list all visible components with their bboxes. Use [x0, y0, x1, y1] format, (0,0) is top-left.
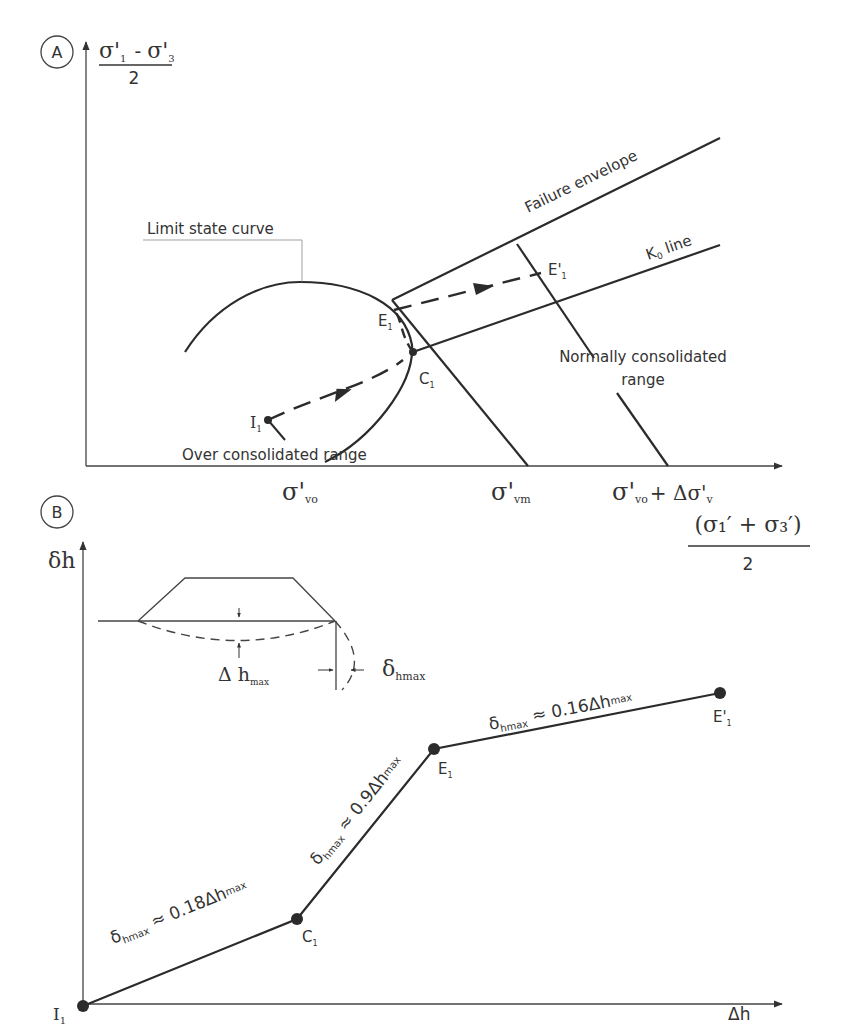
normally-consolidated-label-1: Normally consolidated [559, 348, 727, 366]
point-i1-b [77, 1000, 89, 1012]
point-e1-b [428, 743, 440, 755]
lateral-profile [335, 621, 354, 690]
stress-path-e1-e1prime [394, 273, 541, 310]
badge-b-text: B [52, 503, 63, 522]
svg-text:2: 2 [129, 68, 140, 88]
point-c1-b [291, 913, 303, 925]
limit-state-curve [185, 282, 412, 462]
label-e1prime-b: E'1 [713, 708, 732, 728]
label-e1prime-a: E'1 [548, 261, 567, 281]
stress-path-i1-c1 [268, 360, 403, 420]
x-axis-label-b: Δh [728, 1004, 750, 1024]
limit-state-label: Limit state curve [147, 220, 274, 238]
segment-label-2: δhmax ≈ 0.9Δhmax [306, 751, 408, 870]
tick-sigma-vm: σ'vm [491, 478, 531, 506]
y-axis-label-b: δh [48, 548, 75, 573]
panel-b: B δh Δh Δ hmax δhmax I1 C1 E1 E'1 [41, 496, 782, 1026]
label-i1-b: I1 [53, 1004, 66, 1026]
panel-a-badge: A [41, 36, 73, 68]
delta-h-max-label: Δ hmax [218, 663, 269, 687]
label-e1-a: E1 [378, 312, 393, 332]
segment-label-3: δhmax ≈ 0.16Δhmax [487, 686, 634, 735]
path-arrow-1 [334, 387, 353, 402]
label-i1-a: I1 [250, 413, 262, 434]
figure: A σ'1-σ'3 2 Limit state curve Failure en… [0, 0, 845, 1035]
stress-path-c1-e1 [394, 310, 413, 352]
delta-hmax-label: δhmax [382, 656, 426, 683]
point-e1prime-b [714, 687, 726, 699]
normally-consolidated-label-2: range [621, 371, 665, 389]
panel-b-badge: B [41, 496, 73, 528]
label-c1-a: C1 [419, 370, 435, 390]
unload-line-lower [617, 393, 668, 466]
svg-text:σ'1-σ'3: σ'1-σ'3 [99, 38, 175, 64]
label-c1-b: C1 [302, 928, 318, 948]
label-e1-b: E1 [438, 760, 453, 780]
unload-line-vm [392, 300, 528, 466]
panel-a: A σ'1-σ'3 2 Limit state curve Failure en… [41, 36, 810, 574]
tick-sigma-vo-plus: σ'vo+ Δσ'v [612, 478, 714, 506]
embankment-inset: Δ hmax δhmax [98, 578, 426, 690]
over-consolidated-label: Over consolidated range [182, 446, 367, 464]
limit-state-leader [143, 240, 302, 282]
x-axis-label-a: (σ₁′ + σ₃′) 2 [688, 512, 810, 574]
over-consolidated-leader [268, 420, 285, 440]
k0-line [413, 245, 720, 352]
point-c1-a [409, 348, 417, 356]
k0-line-label: K0 line [643, 231, 694, 264]
settlement-profile [138, 621, 335, 641]
svg-text:2: 2 [743, 554, 754, 574]
svg-text:(σ₁′ + σ₃′): (σ₁′ + σ₃′) [694, 512, 801, 537]
y-axis-label-a: σ'1-σ'3 2 [99, 38, 175, 88]
segment-label-1: δhmax ≈ 0.18Δhmax [107, 875, 250, 950]
displacement-path [83, 693, 720, 1006]
tick-sigma-vo: σ'vo [282, 478, 318, 506]
badge-a-text: A [52, 43, 63, 62]
embankment-outline [138, 578, 335, 621]
